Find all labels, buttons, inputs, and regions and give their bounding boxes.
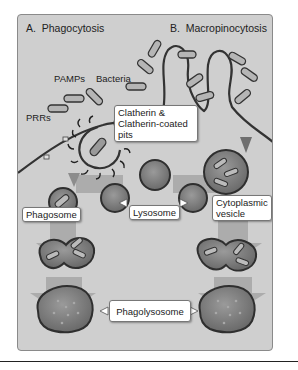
lysosome-callout: Lysosome xyxy=(129,205,180,220)
panel-a-letter: A. xyxy=(26,22,36,34)
cytoplasmic-line-2: vesicle xyxy=(216,208,268,219)
phagosome-callout: Phagosome xyxy=(22,207,81,222)
panel-a-title: A. Phagocytosis xyxy=(26,22,104,34)
clatherin-callout: Clatherin & Clatherin-coated pits xyxy=(114,105,198,142)
panel-b-letter: B. xyxy=(170,22,180,34)
bottom-rule xyxy=(0,361,298,362)
clatherin-line-1: Clatherin & xyxy=(118,107,194,118)
clatherin-line-3: pits xyxy=(118,129,194,140)
prrs-label: PRRs xyxy=(26,112,51,123)
diagram-panel: A. Phagocytosis B. Macropinocytosis PAMP… xyxy=(17,14,273,351)
bacteria-label: Bacteria xyxy=(96,73,131,84)
phagolysosome-right xyxy=(200,286,255,332)
panel-b-heading: Macropinocytosis xyxy=(186,22,267,34)
phagolysosome-callout: Phagolysosome xyxy=(109,300,191,322)
clatherin-line-2: Clatherin-coated xyxy=(118,118,194,129)
panel-b-title: B. Macropinocytosis xyxy=(170,22,267,34)
cytoplasmic-line-1: Cytoplasmic xyxy=(216,197,268,208)
panel-a-heading: Phagocytosis xyxy=(42,22,104,34)
phagolysosome-left xyxy=(38,286,93,332)
cytoplasmic-vesicle-callout: Cytoplasmic vesicle xyxy=(212,195,272,221)
pamps-label: PAMPs xyxy=(54,73,85,84)
